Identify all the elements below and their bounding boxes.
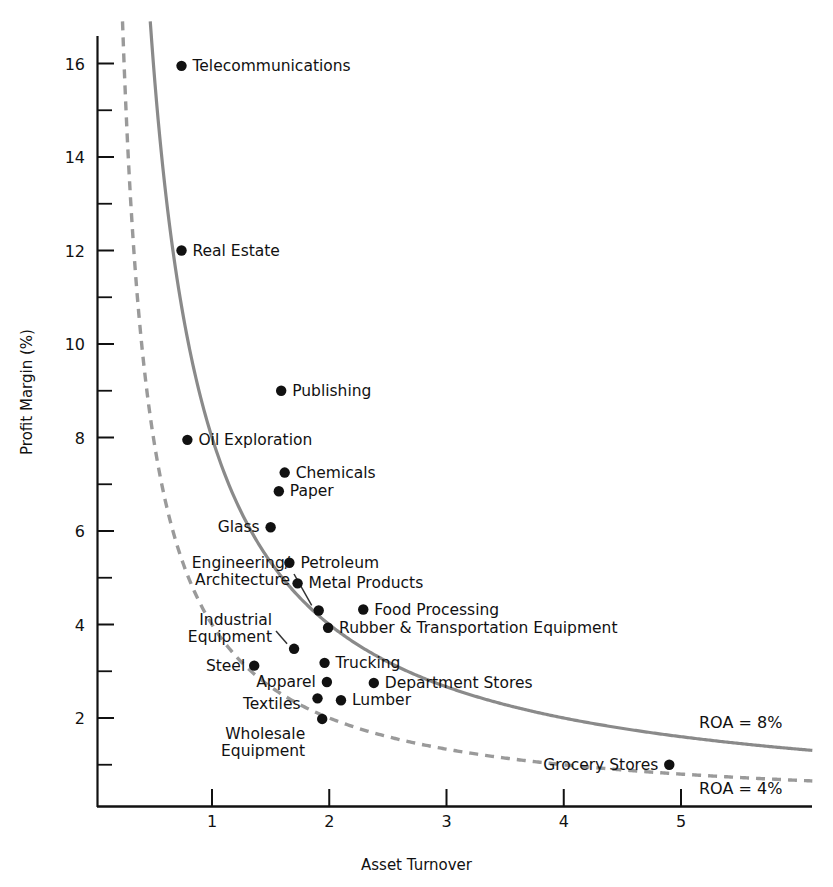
- scatter-chart: 246810121416 12345 TelecommunicationsRea…: [0, 0, 833, 887]
- x-axis-title: Asset Turnover: [0, 856, 833, 874]
- data-point: [664, 760, 674, 770]
- data-point: [312, 693, 322, 703]
- y-tick-label: 2: [40, 709, 85, 728]
- y-tick-label: 6: [40, 522, 85, 541]
- data-point: [274, 486, 284, 496]
- point-label: IndustrialEquipment: [188, 612, 272, 645]
- y-tick-label: 8: [40, 428, 85, 447]
- point-label: Apparel: [256, 674, 316, 690]
- data-point: [289, 644, 299, 654]
- y-tick-label: 14: [40, 148, 85, 167]
- point-label: Publishing: [292, 383, 371, 399]
- data-point: [292, 578, 302, 588]
- x-tick-label: 3: [441, 812, 451, 831]
- point-label: Food Processing: [374, 601, 499, 617]
- leader-line: [276, 631, 287, 644]
- data-point: [279, 467, 289, 477]
- point-label: Trucking: [336, 655, 401, 671]
- data-point: [322, 677, 332, 687]
- data-point: [314, 605, 324, 615]
- data-point: [336, 695, 346, 705]
- x-tick-label: 2: [324, 812, 334, 831]
- data-point: [319, 658, 329, 668]
- x-tick-label: 5: [676, 812, 686, 831]
- point-label: Oil Exploration: [198, 432, 312, 448]
- data-point: [265, 522, 275, 532]
- point-label: WholesaleEquipment: [221, 726, 305, 759]
- point-label: Telecommunications: [193, 58, 351, 74]
- data-point: [358, 604, 368, 614]
- y-axis-title: Profit Margin (%): [18, 292, 36, 492]
- roa-4-annotation: ROA = 4%: [699, 779, 782, 798]
- data-point: [276, 386, 286, 396]
- data-point: [176, 245, 186, 255]
- point-label: Department Stores: [385, 675, 533, 691]
- x-axis-ticks: [212, 789, 681, 807]
- point-label: Lumber: [352, 692, 411, 708]
- data-point: [369, 678, 379, 688]
- y-tick-label: 16: [40, 54, 85, 73]
- data-point: [249, 660, 259, 670]
- plot-area: [0, 0, 833, 887]
- data-point: [176, 61, 186, 71]
- point-label: Rubber & Transportation Equipment: [339, 620, 617, 636]
- data-point: [182, 435, 192, 445]
- y-tick-label: 12: [40, 241, 85, 260]
- point-label: Textiles: [243, 696, 301, 712]
- roa-8-annotation: ROA = 8%: [699, 713, 782, 732]
- point-label: Steel: [206, 657, 245, 673]
- y-tick-label: 4: [40, 615, 85, 634]
- point-label: Petroleum: [300, 555, 379, 571]
- point-label: Real Estate: [193, 242, 280, 258]
- point-label: Paper: [290, 483, 334, 499]
- y-axis-ticks: [98, 64, 115, 765]
- point-label: Chemicals: [296, 464, 376, 480]
- data-points: [176, 61, 674, 770]
- point-label: Metal Products: [309, 575, 424, 591]
- point-label: Glass: [218, 519, 260, 535]
- x-tick-label: 4: [559, 812, 569, 831]
- data-point: [323, 623, 333, 633]
- y-tick-label: 10: [40, 335, 85, 354]
- point-label: Grocery Stores: [543, 757, 658, 773]
- data-point: [317, 714, 327, 724]
- x-tick-label: 1: [207, 812, 217, 831]
- point-label: Engineering/Architecture: [192, 555, 290, 588]
